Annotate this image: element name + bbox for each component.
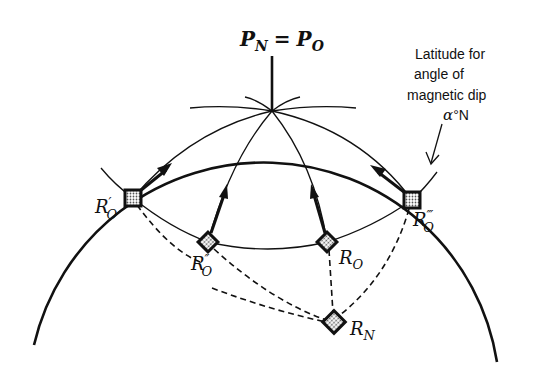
annotation-pointer <box>426 124 442 164</box>
label-r-n: RN <box>349 318 376 343</box>
station-marker-r-o <box>317 232 337 252</box>
label-r-o: RO <box>338 247 364 272</box>
label-r-o-triple-prime: R‴O <box>412 208 434 235</box>
dashed-connections <box>137 205 409 322</box>
station-marker-r-n <box>323 311 346 334</box>
station-meridians <box>133 111 412 242</box>
label-r-o-prime: R′O <box>94 195 118 222</box>
magnetic-dip-diagram: PN=PO Latitude for angle of magnetic dip… <box>0 0 546 382</box>
station-marker-r-o-triple-prime <box>404 192 420 208</box>
latitude-annotation: Latitude for angle of magnetic dip α°N <box>407 46 487 124</box>
svg-text:magnetic dip: magnetic dip <box>407 87 487 103</box>
svg-text:angle of: angle of <box>414 66 464 82</box>
pole-label: PN=PO <box>239 27 325 54</box>
arrowhead-icon <box>219 184 228 199</box>
label-r-o-double-prime: R″O <box>190 252 212 279</box>
arrowhead-icon <box>310 184 319 199</box>
arrowheads <box>157 163 386 199</box>
svg-text:Latitude for: Latitude for <box>415 46 485 62</box>
svg-text:α°N: α°N <box>443 106 469 124</box>
globe-outline <box>34 163 497 362</box>
station-marker-r-o-prime <box>125 190 141 206</box>
